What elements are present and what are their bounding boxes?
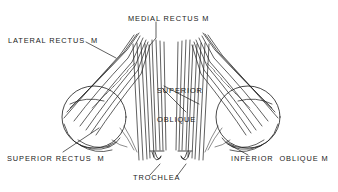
label-superior-rectus: SUPERIOR RECTUS M: [7, 154, 105, 164]
left-insertion-detail: [112, 126, 137, 152]
label-superior-oblique-line2: OBLIQUE: [157, 115, 203, 125]
label-lateral-rectus: LATERAL RECTUS M: [8, 36, 98, 46]
leader-superior-rectus: [63, 128, 99, 152]
anatomy-figure: LATERAL RECTUS M MEDIAL RECTUS M SUPERIO…: [0, 0, 338, 192]
label-trochlea: TROCHLEA: [133, 173, 180, 183]
right-trochlea: [178, 151, 192, 160]
right-insertion-detail: [205, 126, 230, 152]
right-lateral-rectus: [203, 33, 278, 118]
left-inferior-oblique: [78, 140, 116, 152]
left-eye-group: [62, 33, 166, 160]
label-inferior-oblique: INFERIOR OBLIQUE M: [231, 154, 329, 164]
left-trochlea: [150, 151, 164, 160]
label-medial-rectus: MEDIAL RECTUS M: [128, 14, 209, 24]
label-superior-oblique: SUPERIOR OBLIQUE: [157, 67, 203, 144]
right-superior-rectus: [192, 36, 268, 135]
label-superior-oblique-line1: SUPERIOR: [157, 86, 203, 96]
leader-medial-rectus: [150, 22, 156, 45]
left-superior-rectus: [74, 36, 150, 135]
left-lateral-rectus: [64, 33, 139, 118]
left-medial-rectus: [133, 43, 154, 160]
